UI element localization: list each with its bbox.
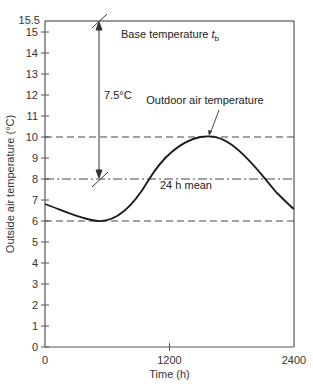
base-temperature-label: Base temperature tb	[121, 28, 220, 43]
chart: 0 1 2 3 4 5 6 7 8 9 10 11 12 13 14 15 15…	[0, 0, 313, 389]
svg-text:5: 5	[32, 236, 38, 248]
arrow-down-icon	[96, 170, 102, 178]
svg-text:1: 1	[32, 320, 38, 332]
svg-text:14: 14	[26, 47, 38, 59]
svg-text:15.5: 15.5	[19, 14, 40, 26]
y-tick-labels: 0 1 2 3 4 5 6 7 8 9 10 11 12 13 14 15 15…	[19, 14, 40, 353]
svg-text:15: 15	[26, 26, 38, 38]
svg-text:8: 8	[32, 173, 38, 185]
svg-text:12: 12	[26, 89, 38, 101]
leader-arrow-icon	[208, 130, 212, 136]
svg-text:4: 4	[32, 257, 38, 269]
outdoor-temperature-label: Outdoor air temperature	[146, 94, 263, 106]
svg-text:10: 10	[26, 131, 38, 143]
x-tick-label-0: 0	[42, 354, 48, 366]
svg-text:3: 3	[32, 278, 38, 290]
svg-text:13: 13	[26, 68, 38, 80]
x-tick-label-1200: 1200	[157, 354, 181, 366]
x-tick-label-2400: 2400	[282, 354, 306, 366]
delta-label: 7.5°C	[104, 89, 132, 101]
svg-text:11: 11	[27, 110, 38, 122]
svg-text:6: 6	[32, 215, 38, 227]
x-axis-title: Time (h)	[149, 368, 190, 380]
svg-text:9: 9	[32, 152, 38, 164]
svg-text:7: 7	[32, 194, 38, 206]
svg-text:0: 0	[32, 341, 38, 353]
outdoor-leader-line	[210, 110, 219, 134]
mean-label: 24 h mean	[160, 179, 212, 191]
svg-text:2: 2	[32, 299, 38, 311]
y-axis-title: Outside air temperature (°C)	[4, 115, 16, 253]
